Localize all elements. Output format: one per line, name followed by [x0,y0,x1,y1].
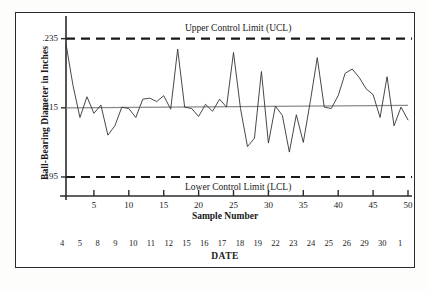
x-tick-label: 10 [120,200,138,210]
date-label: 30 [375,238,389,248]
date-label: 19 [251,238,265,248]
date-axis-title: DATE [150,251,300,261]
date-label: 26 [340,238,354,248]
reference-lines [66,39,412,177]
control-chart-figure: Ball-Bearing Diameter in Inches .235.215… [0,0,429,290]
date-label: 29 [357,238,371,248]
date-label: 11 [144,238,158,248]
date-label: 22 [268,238,282,248]
x-tick-label: 40 [329,200,347,210]
date-label: 24 [304,238,318,248]
x-tick-label: 25 [225,200,243,210]
date-label: 5 [73,238,87,248]
date-label: 10 [126,238,140,248]
x-tick-label: 15 [155,200,173,210]
x-tick-label: 45 [364,200,382,210]
x-tick-label: 50 [399,200,417,210]
x-axis-title: Sample Number [150,211,300,221]
x-tick-label: 35 [294,200,312,210]
date-label: 18 [233,238,247,248]
date-label: 12 [162,238,176,248]
date-label: 25 [322,238,336,248]
date-label: 23 [286,238,300,248]
date-label: 16 [197,238,211,248]
y-tick-label: .215 [32,102,58,112]
date-label: 1 [393,238,407,248]
y-tick-label: .235 [32,33,58,43]
upper-control-limit-label: Upper Control Limit (UCL) [185,23,291,33]
date-label: 4 [55,238,69,248]
x-tick-label: 30 [259,200,277,210]
lower-control-limit-label: Lower Control Limit (LCL) [185,182,291,192]
y-tick-label: .195 [32,171,58,181]
date-label: 8 [91,238,105,248]
date-label: 15 [180,238,194,248]
date-label: 9 [108,238,122,248]
data-series-line [66,44,408,152]
date-label: 17 [215,238,229,248]
x-tick-label: 5 [85,200,103,210]
x-tick-label: 20 [190,200,208,210]
